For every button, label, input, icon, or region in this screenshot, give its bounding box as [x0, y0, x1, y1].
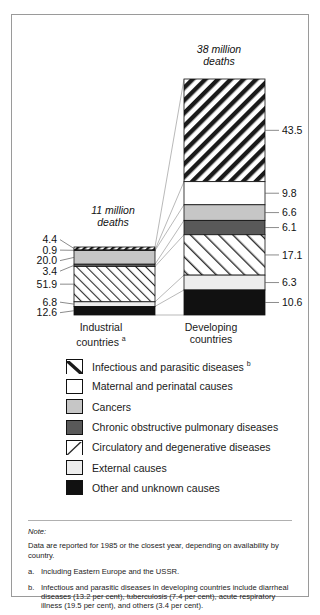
- legend-label: Chronic obstructive pulmonary diseases: [92, 421, 278, 433]
- footnote-marker: a.: [28, 567, 41, 576]
- bar-segment: [74, 247, 155, 250]
- legend-item: Chronic obstructive pulmonary diseases: [66, 417, 306, 437]
- value-leader-line: [60, 265, 74, 271]
- figure-panel: 4.40.920.03.451.96.812.6 43.59.86.66.117…: [11, 14, 309, 597]
- legend-swatch: [66, 359, 83, 374]
- segment-value-label: 51.9: [37, 278, 58, 290]
- segment-value-label: 6.3: [282, 276, 297, 288]
- bar-segment: [184, 220, 265, 234]
- note-divider: [28, 520, 292, 521]
- legend-item: Cancers: [66, 397, 306, 417]
- bar-segment: [74, 251, 155, 265]
- segment-connector: [155, 275, 184, 302]
- segment-connector-lines: [155, 79, 184, 315]
- legend-label: External causes: [92, 462, 167, 474]
- legend-swatch: [66, 460, 83, 475]
- value-leader-line: [60, 302, 74, 304]
- segment-value-label: 10.6: [282, 296, 303, 308]
- category-label-industrial: Industrialcountries a: [46, 321, 156, 348]
- segment-value-label: 9.8: [282, 187, 297, 199]
- bar-segment: [184, 79, 265, 182]
- footnote-list: a.Including Eastern Europe and the USSR.…: [28, 567, 296, 611]
- bar-segment: [74, 306, 155, 315]
- footnote-marker: b.: [28, 583, 41, 611]
- bar-segment: [184, 275, 265, 290]
- bar-developing-countries: [184, 79, 265, 315]
- legend-item: Other and unknown causes: [66, 478, 306, 498]
- segment-value-label: 6.6: [282, 206, 297, 218]
- note-section: Note: Data are reported for 1985 or the …: [28, 527, 296, 615]
- legend-label: Cancers: [92, 401, 131, 413]
- chart-legend: Infectious and parasitic diseases bMater…: [66, 356, 306, 498]
- segment-connector: [155, 220, 184, 264]
- value-leader-line: [60, 257, 74, 260]
- category-label-developing: Developingcountries: [156, 321, 266, 345]
- legend-swatch: [66, 399, 83, 414]
- category-note-marker: a: [122, 335, 126, 342]
- legend-label: Circulatory and degenerative diseases: [92, 441, 271, 453]
- segment-value-label: 12.6: [37, 306, 58, 318]
- bar-industrial-countries: [74, 247, 155, 315]
- note-body: Data are reported for 1985 or the closes…: [28, 541, 296, 560]
- segment-value-label: 17.1: [282, 249, 303, 261]
- segment-value-label: 43.5: [282, 124, 303, 136]
- footnote: a.Including Eastern Europe and the USSR.: [28, 567, 296, 576]
- footnote-text: Including Eastern Europe and the USSR.: [41, 567, 296, 576]
- bar-segment: [74, 267, 155, 302]
- bar-total-industrial: 11 milliondeaths: [70, 204, 156, 228]
- legend-label: Other and unknown causes: [92, 482, 220, 494]
- legend-item: Circulatory and degenerative diseases: [66, 437, 306, 457]
- bar-segment: [184, 235, 265, 275]
- legend-label: Infectious and parasitic diseases b: [92, 360, 251, 373]
- legend-note-marker: b: [247, 360, 251, 367]
- note-heading: Note:: [28, 527, 296, 536]
- footnote: b.Infectious and parasitic diseases in d…: [28, 583, 296, 611]
- segment-connector: [155, 79, 184, 247]
- legend-item: External causes: [66, 457, 306, 477]
- segment-value-label: 6.1: [282, 221, 297, 233]
- bar-segment: [184, 290, 265, 315]
- legend-swatch: [66, 440, 83, 455]
- value-leader-line: [60, 311, 74, 313]
- bar-segment: [184, 205, 265, 221]
- legend-item: Infectious and parasitic diseases b: [66, 356, 306, 376]
- legend-label: Maternal and perinatal causes: [92, 380, 233, 392]
- legend-swatch: [66, 420, 83, 435]
- value-labels-industrial: 4.40.920.03.451.96.812.6: [37, 233, 58, 318]
- value-leader-line: [60, 240, 74, 249]
- legend-swatch: [66, 480, 83, 495]
- stacked-bar-chart: 4.40.920.03.451.96.812.6 43.59.86.66.117…: [12, 15, 308, 345]
- bar-segment: [74, 302, 155, 307]
- chart-svg: 4.40.920.03.451.96.812.6 43.59.86.66.117…: [12, 15, 308, 345]
- bar-total-developing: 38 milliondeaths: [176, 43, 262, 67]
- value-leader-lines-left: [60, 240, 74, 313]
- legend-swatch: [66, 379, 83, 394]
- segment-connector: [155, 205, 184, 251]
- value-leader-lines-right: [265, 130, 279, 302]
- segment-value-label: 3.4: [42, 265, 57, 277]
- value-labels-developing: 43.59.86.66.117.16.310.6: [282, 124, 303, 308]
- bar-segment: [184, 182, 265, 205]
- footnote-text: Infectious and parasitic diseases in dev…: [41, 583, 296, 611]
- legend-item: Maternal and perinatal causes: [66, 376, 306, 396]
